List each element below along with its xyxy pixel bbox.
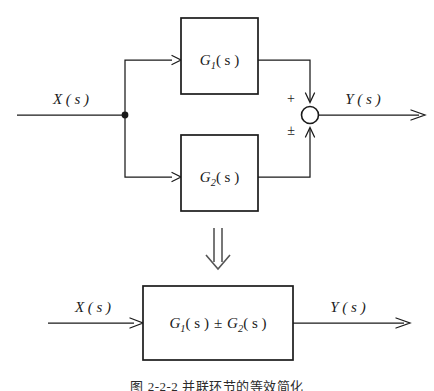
arrowhead-into-g2	[172, 173, 181, 182]
sum-sign-top: +	[287, 91, 295, 106]
combined-base-2: G	[227, 315, 238, 331]
combined-arg-2: ( s )	[243, 315, 266, 332]
g2-arg: ( s )	[216, 169, 239, 186]
figure-caption: 图 2-2-2 并联环节的等效简化	[0, 376, 434, 391]
output-label-bottom: Y ( s )	[330, 299, 365, 316]
summing-junction	[302, 107, 319, 124]
combined-arg-1: ( s )	[186, 315, 209, 332]
wire-g1-to-sum	[258, 60, 310, 101]
arrowhead-into-g1	[172, 56, 181, 65]
input-label-top: X ( s )	[52, 91, 89, 108]
g1-arg: ( s )	[216, 52, 239, 69]
g2-base: G	[200, 169, 211, 185]
block-diagram-figure: G1( s ) G2( s ) + ± X ( s ) Y ( s )	[0, 0, 434, 391]
combined-operator: ±	[214, 315, 222, 331]
sum-sign-bottom: ±	[287, 123, 295, 138]
diagram-canvas: G1( s ) G2( s ) + ± X ( s ) Y ( s )	[0, 0, 434, 391]
transform-double-arrow-icon	[206, 228, 230, 269]
output-label-top: Y ( s )	[345, 91, 380, 108]
branch-wire-upper	[125, 60, 172, 115]
g1-base: G	[200, 52, 211, 68]
combined-base-1: G	[169, 315, 180, 331]
wire-g2-to-sum	[258, 129, 310, 177]
branch-wire-lower	[125, 115, 172, 177]
input-label-bottom: X ( s )	[74, 299, 111, 316]
